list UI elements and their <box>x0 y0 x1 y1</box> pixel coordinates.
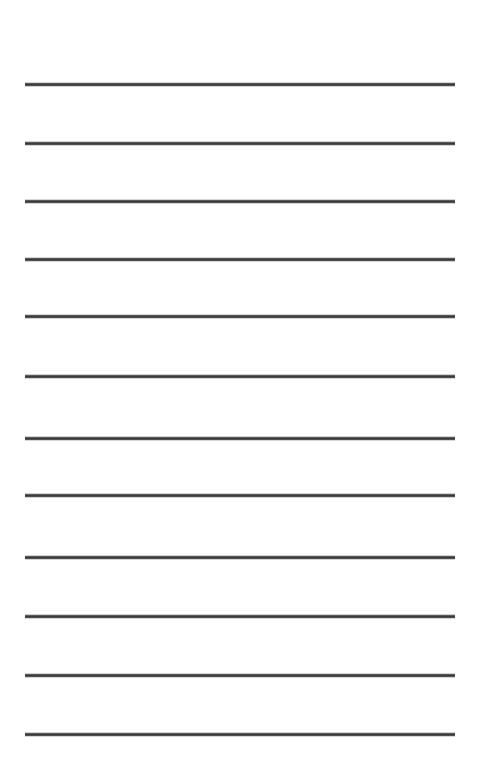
ruled-line-fringe <box>25 203 455 204</box>
ruled-line-fringe <box>25 677 455 678</box>
ruled-line-fringe <box>25 440 455 441</box>
ruled-line-fringe <box>25 736 455 737</box>
ruled-line-fringe <box>25 318 455 319</box>
ruled-line-fringe <box>25 618 455 619</box>
lined-paper-sheet <box>0 0 478 772</box>
ruled-line-fringe <box>25 145 455 146</box>
ruled-line-layer <box>0 0 478 772</box>
ruled-line-fringe <box>25 261 455 262</box>
ruled-line-fringe <box>25 559 455 560</box>
ruled-line-fringe <box>25 378 455 379</box>
ruled-line-fringe <box>25 497 455 498</box>
ruled-line-fringe <box>25 86 455 87</box>
